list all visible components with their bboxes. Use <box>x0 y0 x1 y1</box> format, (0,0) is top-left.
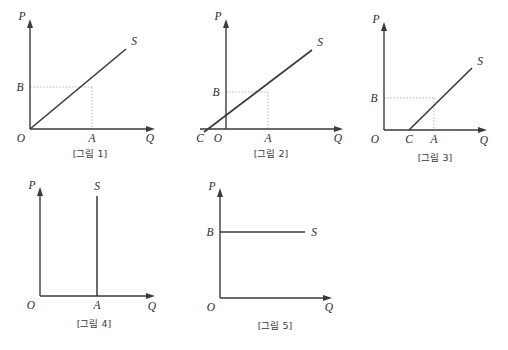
price-point-label-b: B <box>16 81 23 93</box>
figure-1-caption: [그림 1] <box>0 146 180 160</box>
figure-2-caption: [그림 2] <box>178 146 364 160</box>
p-axis-arrow-icon <box>217 188 223 197</box>
quantity-point-label-a: A <box>429 133 438 145</box>
origin-label: O <box>371 133 380 145</box>
intercept-label-c: C <box>405 133 413 145</box>
figure-1-plot: P Q O B A S <box>0 6 180 146</box>
price-point-label-b: B <box>212 86 219 98</box>
p-axis-label: P <box>207 180 215 192</box>
p-axis-label: P <box>213 10 221 22</box>
origin-label: O <box>27 299 36 311</box>
quantity-point-label-a: A <box>263 132 272 144</box>
figure-1: P Q O B A S [그림 1] <box>0 6 180 166</box>
supply-curve <box>409 68 472 130</box>
figure-4: P Q O A S [그림 4] <box>8 178 180 338</box>
supply-curve-label: S <box>477 55 483 67</box>
figure-2-plot: P Q O C B A S <box>178 6 364 146</box>
figure-3-caption: [그림 3] <box>362 150 508 164</box>
q-axis-label: Q <box>480 134 489 146</box>
supply-curve-label: S <box>94 180 100 192</box>
p-axis-arrow-icon <box>381 22 387 31</box>
quantity-point-label-a: A <box>92 299 101 311</box>
origin-label: O <box>207 301 216 313</box>
supply-curve <box>30 49 126 129</box>
p-axis-label: P <box>27 179 35 191</box>
figure-4-plot: P Q O A S <box>8 178 180 313</box>
q-axis-label: Q <box>146 132 155 144</box>
q-axis-label: Q <box>334 132 343 144</box>
figure-5-plot: P Q O B S <box>190 180 360 315</box>
supply-curve-label: S <box>131 35 137 47</box>
origin-label: O <box>17 132 26 144</box>
price-point-label-b: B <box>370 92 377 104</box>
intercept-label-c: C <box>196 132 204 144</box>
origin-label: O <box>214 132 223 144</box>
supply-curve-label: S <box>317 36 323 48</box>
q-axis-arrow-icon <box>478 127 487 133</box>
figure-4-caption: [그림 4] <box>8 316 180 330</box>
q-axis-arrow-icon <box>146 293 155 299</box>
figure-3: P Q O C B A S [그림 3] <box>362 10 508 170</box>
figure-3-plot: P Q O C B A S <box>362 10 508 150</box>
figure-2: P Q O C B A S [그림 2] <box>178 6 364 166</box>
supply-curve-label: S <box>311 226 317 238</box>
p-axis-label: P <box>371 13 379 25</box>
p-axis-arrow-icon <box>37 187 43 196</box>
q-axis-label: Q <box>148 300 157 312</box>
q-axis-label: Q <box>325 301 334 313</box>
p-axis-arrow-icon <box>27 19 33 28</box>
quantity-point-label-a: A <box>87 132 96 144</box>
p-axis-label: P <box>17 10 25 22</box>
figure-5-caption: [그림 5] <box>190 318 360 332</box>
figure-5: P Q O B S [그림 5] <box>190 180 360 340</box>
price-point-label-b: B <box>206 226 213 238</box>
supply-curve <box>204 50 312 132</box>
p-axis-arrow-icon <box>223 19 229 28</box>
